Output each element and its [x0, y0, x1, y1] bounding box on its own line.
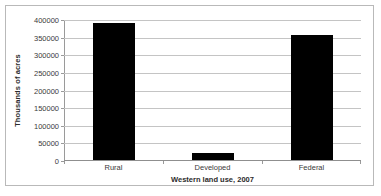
y-axis-tick-label: 300000	[21, 51, 59, 60]
x-axis-tick-label: Rural	[105, 163, 123, 172]
y-axis-tick-label: 350000	[21, 33, 59, 42]
x-axis-line	[64, 160, 361, 161]
y-axis-tick-label: 100000	[21, 121, 59, 130]
y-axis-tick	[61, 91, 64, 92]
y-axis-tick	[61, 38, 64, 39]
bar-developed	[192, 153, 234, 160]
y-axis-tick	[61, 108, 64, 109]
y-axis-tick-label: 400000	[21, 16, 59, 25]
y-axis-tick	[61, 143, 64, 144]
y-axis-tick	[61, 20, 64, 21]
bar-rural	[93, 23, 135, 160]
plot-area	[64, 20, 361, 161]
x-axis-tick-label: Developed	[195, 163, 231, 172]
gridline	[64, 20, 361, 21]
y-axis-tick-label: 150000	[21, 104, 59, 113]
x-axis-tick-label: Federal	[299, 163, 324, 172]
y-axis-tick-label: 0	[21, 157, 59, 166]
y-axis-tick	[61, 126, 64, 127]
y-axis-tick-label: 50000	[21, 139, 59, 148]
x-axis-title: Western land use, 2007	[64, 175, 361, 184]
y-axis-tick	[61, 73, 64, 74]
y-axis-tick-label: 200000	[21, 86, 59, 95]
chart-frame: Thousands of acres 050000100000150000200…	[5, 5, 374, 186]
y-axis-tick-labels: 0500001000001500002000002500003000003500…	[24, 15, 62, 167]
y-axis-tick	[61, 55, 64, 56]
x-axis-tick-labels: RuralDevelopedFederal	[64, 163, 361, 175]
y-axis-tick-label: 250000	[21, 68, 59, 77]
bar-federal	[291, 35, 333, 160]
